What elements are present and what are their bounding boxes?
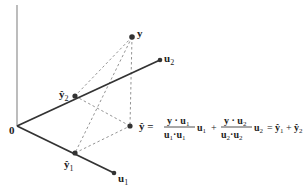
eq-frac1-denominator: u1·u1 xyxy=(164,129,186,142)
dashed-yhat1-to-yhat xyxy=(75,126,130,153)
eq-rhs-yhat1: ŷ1 xyxy=(275,122,284,135)
dashed-yhat2-to-yhat xyxy=(75,96,130,126)
point-u2 xyxy=(158,58,163,63)
point-y xyxy=(129,34,135,40)
point-yhat2 xyxy=(72,93,77,98)
eq-plus1: + xyxy=(211,122,217,133)
point-yhat1 xyxy=(72,150,77,155)
eq-frac2-denominator: u2·u2 xyxy=(221,129,243,142)
label-yhat1: ŷ1 xyxy=(64,158,74,173)
eq-term2-vector: u2 xyxy=(254,122,264,135)
u2-vector-line xyxy=(17,60,160,126)
point-u1 xyxy=(112,171,117,176)
label-yhat2: ŷ2 xyxy=(59,88,69,103)
eq-plus2: + xyxy=(286,122,292,133)
label-y: y xyxy=(137,27,143,39)
projection-diagram: 0 y u2 ŷ2 ŷ1 u1 ŷ = y · u1 u1·u1 u1 + y … xyxy=(0,0,306,194)
point-yhat xyxy=(127,123,132,128)
eq-lhs: ŷ = xyxy=(139,120,154,132)
dashed-y-to-yhat xyxy=(130,37,132,126)
dashed-y-to-yhat2 xyxy=(75,37,132,96)
label-u1: u1 xyxy=(118,172,128,187)
label-origin: 0 xyxy=(9,124,15,136)
eq-frac2-numerator: y · u2 xyxy=(224,115,247,128)
projection-equation: ŷ = y · u1 u1·u1 u1 + y · u2 u2·u2 u2 = … xyxy=(139,115,303,142)
eq-equals: = xyxy=(267,122,273,133)
eq-term1-vector: u1 xyxy=(197,122,207,135)
eq-frac1-numerator: y · u1 xyxy=(167,115,190,128)
eq-rhs-yhat2: ŷ2 xyxy=(294,122,303,135)
label-u2: u2 xyxy=(164,52,174,67)
